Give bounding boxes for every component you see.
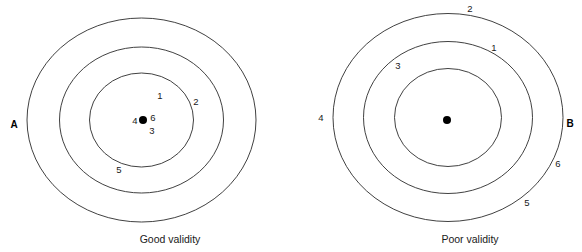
shot-label-1: 1 bbox=[157, 90, 162, 101]
shot-label-5: 5 bbox=[116, 164, 121, 175]
shot-label-6: 6 bbox=[150, 112, 155, 123]
validity-target-diagram: 123456123456ABGood validityPoor validity bbox=[0, 0, 582, 252]
shot-label-5: 5 bbox=[524, 197, 529, 208]
panel-caption-a: Good validity bbox=[140, 233, 201, 245]
shot-label-3: 3 bbox=[149, 125, 154, 136]
validity-figure: 123456123456ABGood validityPoor validity bbox=[0, 0, 582, 252]
shot-label-2: 2 bbox=[467, 3, 472, 14]
shot-label-2: 2 bbox=[193, 96, 198, 107]
target-panel-a: 123456 bbox=[27, 18, 256, 222]
shot-label-6: 6 bbox=[555, 158, 560, 169]
bullseye-dot bbox=[443, 116, 451, 124]
shot-label-4: 4 bbox=[318, 112, 323, 123]
panel-caption-b: Poor validity bbox=[441, 233, 499, 245]
shot-label-1: 1 bbox=[491, 42, 496, 53]
panel-letter-a: A bbox=[10, 119, 17, 130]
target-panel-b: 123456 bbox=[318, 3, 563, 222]
shot-label-4: 4 bbox=[132, 115, 137, 126]
bullseye-dot bbox=[139, 116, 147, 124]
shot-label-3: 3 bbox=[395, 60, 400, 71]
panel-letter-b: B bbox=[566, 118, 573, 129]
